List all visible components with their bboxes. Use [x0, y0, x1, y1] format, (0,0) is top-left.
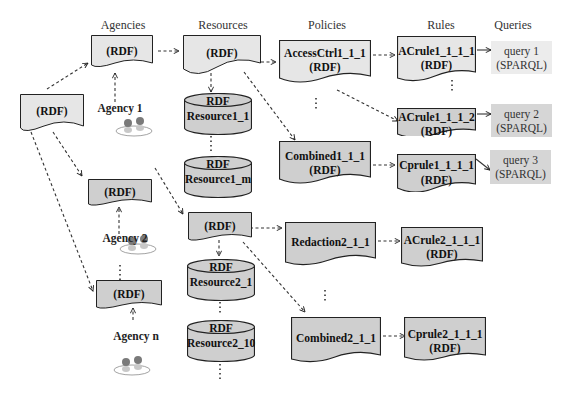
rule-cprule1-1-1-1[interactable]: Cprule1_1_1_1 (RDF) — [397, 154, 476, 192]
policy-combined2-1-1[interactable]: Combined2_1_1 — [291, 317, 381, 365]
agencyn-label: Agency n — [96, 330, 176, 342]
query-2[interactable]: query 2 (SPARQL) — [491, 104, 552, 137]
policy-combined1-1-1[interactable]: Combined1_1_1 (RDF) — [279, 141, 371, 186]
query-1[interactable]: query 1 (SPARQL) — [491, 41, 552, 74]
arrow-root-agency2 — [53, 132, 82, 176]
rule-acrule1-1-1-2[interactable]: ACrule1_1_1_2 (RDF) — [397, 108, 476, 136]
header-resources: Resources — [178, 18, 268, 33]
resource2-document[interactable]: (RDF) — [188, 212, 252, 242]
agency1-document[interactable]: (RDF) — [91, 35, 153, 69]
rule-acrule2-1-1-1[interactable]: ACrule2_1_1_1 (RDF) — [401, 227, 483, 267]
resource1-document[interactable]: (RDF) — [183, 35, 261, 75]
header-queries: Queries — [468, 18, 558, 33]
agency2-label: Agency 2 — [85, 232, 165, 244]
resource2-10-store[interactable]: RDF Resource2_10 — [187, 320, 255, 362]
rule-cprule2-1-1-1[interactable]: Cprule2_1_1_1 (RDF) — [404, 317, 486, 363]
resource2-1-store[interactable]: RDF Resource2_1 — [187, 259, 255, 301]
rule-acrule1-1-1-1[interactable]: ACrule1_1_1_1 (RDF) — [397, 36, 476, 82]
policy-accessctrl1-1-1[interactable]: AccessCtrl1_1_1 (RDF) — [279, 40, 371, 85]
query-3[interactable]: query 3 (SPARQL) — [490, 150, 551, 184]
header-agencies: Agencies — [78, 18, 168, 33]
agencyn-document[interactable]: (RDF) — [96, 280, 162, 310]
arrow-root-agencyn — [31, 132, 93, 291]
agency1-label: Agency 1 — [80, 102, 160, 114]
resource1-m-store[interactable]: RDF Resource1_m — [184, 156, 252, 198]
resource1-1-store[interactable]: RDF Resource1_1 — [184, 93, 252, 135]
root-document[interactable]: (RDF) — [20, 94, 84, 132]
header-policies: Policies — [282, 18, 372, 33]
policy-redaction2-1-1[interactable]: Redaction2_1_1 — [285, 222, 376, 268]
arrow-root-agency1 — [47, 63, 88, 89]
agency2-document[interactable]: (RDF) — [88, 179, 152, 207]
